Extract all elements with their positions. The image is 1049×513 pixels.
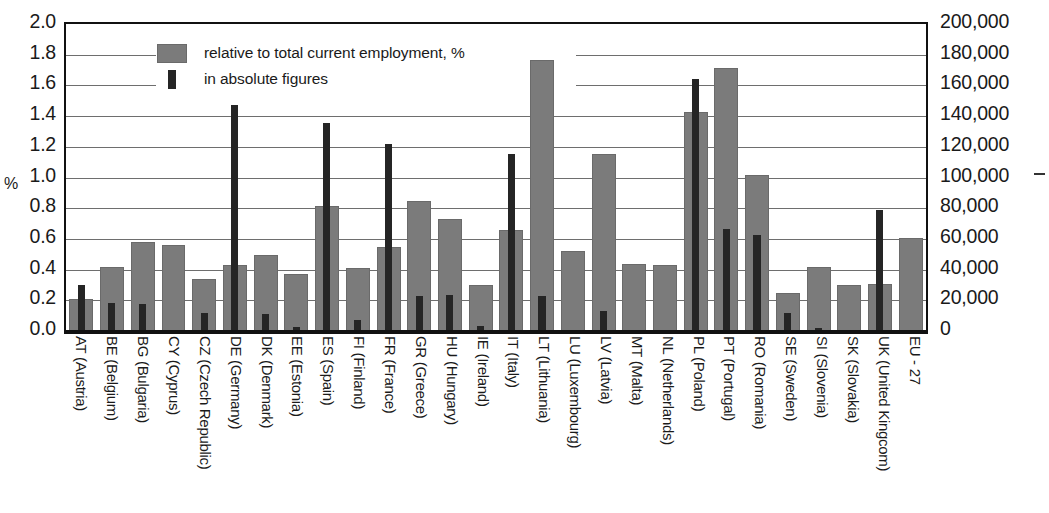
x-axis-tick-label-text: GR (Greece) [414, 336, 429, 419]
right-axis-tick-label: 160,000 [940, 73, 1009, 93]
right-axis-tick-label: 100,000 [940, 166, 1009, 186]
bar-absolute-figures [753, 235, 760, 331]
left-axis-tick-label: 1.8 [29, 43, 56, 63]
x-axis-tick-label-text: UK (United Kingcom) [877, 336, 892, 471]
x-axis-tick-label-text: AT (Austria) [75, 336, 90, 411]
x-axis-tick-label: ES (Spain) [311, 336, 342, 508]
x-axis-tick-label-text: PL (Poland) [692, 336, 707, 411]
bar-relative-percent [469, 285, 493, 331]
x-axis-tick-label-text: BE (Belgium) [105, 336, 120, 421]
x-axis-tick-label-text: CY (Cyprus) [167, 336, 182, 415]
x-axis-tick-label-text: SE (Sweden) [784, 336, 799, 421]
x-axis-tick-label: FR (France) [373, 336, 404, 508]
x-axis-tick-label-text: MT (Malta) [630, 336, 645, 405]
right-axis-tick-label: 20,000 [940, 288, 998, 308]
bar-absolute-figures [323, 123, 330, 331]
x-axis-tick-label-text: EE (Estonia) [291, 336, 306, 417]
right-axis-tick-label: 40,000 [940, 258, 998, 278]
x-axis-tick-label-text: ES (Spain) [321, 336, 336, 406]
right-axis-tick-label: 200,000 [940, 12, 1009, 32]
bar-relative-percent [622, 264, 646, 331]
x-axis-tick-label: BG (Bulgaria) [126, 336, 157, 508]
x-axis-tick-label: IT (Italy) [496, 336, 527, 508]
x-axis-tick-label-text: FI (Finland) [352, 336, 367, 409]
x-axis-tick-label: NL (Netherlands) [650, 336, 681, 508]
bar-group [558, 24, 589, 331]
bar-group [588, 24, 619, 331]
x-axis-tick-label-text: IT (Italy) [507, 336, 522, 388]
bar-relative-percent [592, 154, 616, 331]
left-axis-tick-label: 1.0 [29, 166, 56, 186]
x-axis-tick-label: CY (Cyprus) [157, 336, 188, 508]
bar-absolute-figures [508, 154, 515, 331]
x-axis-tick-label-text: LU (Luxembourg) [568, 336, 583, 448]
left-axis-tick-label: 1.2 [29, 135, 56, 155]
x-axis-tick-label: DE (Germany) [218, 336, 249, 508]
x-axis-tick-label-text: CZ (Czech Republic) [198, 336, 213, 470]
bar-absolute-figures [876, 210, 883, 331]
right-axis-tick-label: 180,000 [940, 43, 1009, 63]
x-axis-tick-label: PL (Poland) [681, 336, 712, 508]
bar-absolute-figures [784, 313, 791, 331]
x-axis-tick-label: PT (Portugal) [712, 336, 743, 508]
bar-group [773, 24, 804, 331]
x-axis-tick-label: CZ (Czech Republic) [187, 336, 218, 508]
bar-absolute-figures [538, 296, 545, 331]
x-axis-tick-label: HU (Hungary) [434, 336, 465, 508]
x-axis-tick-label: LU (Luxembourg) [558, 336, 589, 508]
x-axis-tick-label: MT (Malta) [619, 336, 650, 508]
x-axis-tick-label: SI (Slovenia) [805, 336, 836, 508]
bar-group [127, 24, 158, 331]
bar-absolute-figures [262, 314, 269, 331]
x-axis-tick-label: DK (Denmark) [249, 336, 280, 508]
x-axis-tick-label-text: RO (Romania) [754, 336, 769, 429]
left-axis-title: % [4, 175, 18, 193]
x-axis-tick-label-text: EU - 27 [908, 336, 923, 385]
bar-absolute-figures [108, 303, 115, 331]
bar-relative-percent [162, 245, 186, 331]
right-axis-tick-label: 0 [940, 319, 951, 339]
bar-group [895, 24, 926, 331]
bar-relative-percent [837, 285, 861, 331]
bar-group [619, 24, 650, 331]
x-axis-tick-label-text: HU (Hungary) [445, 336, 460, 425]
bar-absolute-figures [692, 79, 699, 331]
x-axis-tick-label: SK (Slovakia) [835, 336, 866, 508]
bar-relative-percent [899, 238, 923, 331]
x-axis-tick-label: AT (Austria) [64, 336, 95, 508]
bar-group [711, 24, 742, 331]
x-axis-tick-label: IE (Ireland) [465, 336, 496, 508]
x-axis-category-labels: AT (Austria)BE (Belgium)BG (Bulgaria)CY … [64, 336, 928, 508]
bar-relative-percent [653, 265, 677, 331]
bar-group [680, 24, 711, 331]
bar-group [496, 24, 527, 331]
x-axis-tick-label-text: SI (Slovenia) [815, 336, 830, 418]
x-axis-tick-label-text: BG (Bulgaria) [136, 336, 151, 423]
x-axis-tick-label-text: DK (Denmark) [260, 336, 275, 428]
legend-swatch-gray-icon [157, 44, 187, 63]
bar-group [865, 24, 896, 331]
bar-absolute-figures [416, 296, 423, 331]
bar-absolute-figures [723, 229, 730, 331]
bar-group [465, 24, 496, 331]
x-axis-tick-label: EU - 27 [897, 336, 928, 508]
left-axis-tick-label: 0.2 [29, 288, 56, 308]
bar-absolute-figures [201, 313, 208, 331]
bar-absolute-figures [446, 295, 453, 331]
x-axis-tick-label-text: FR (France) [383, 336, 398, 414]
x-axis-tick-label: RO (Romania) [743, 336, 774, 508]
bar-group [97, 24, 128, 331]
x-axis-tick-label-text: IE (Ireland) [476, 336, 491, 407]
bar-group [66, 24, 97, 331]
left-axis-tick-label: 0.8 [29, 196, 56, 216]
x-axis-tick-label-text: PT (Portugal) [723, 336, 738, 421]
x-axis-tick-label: LT (Lithuania) [527, 336, 558, 508]
right-axis-tick-label: 60,000 [940, 227, 998, 247]
bar-relative-percent [530, 60, 554, 331]
bar-group [803, 24, 834, 331]
legend-swatch-black-icon [157, 70, 187, 89]
legend-item-absolute: in absolute figures [157, 66, 465, 92]
x-axis-tick-label: FI (Finland) [342, 336, 373, 508]
left-axis-tick-label: 1.4 [29, 104, 56, 124]
legend-label-absolute: in absolute figures [204, 70, 328, 88]
